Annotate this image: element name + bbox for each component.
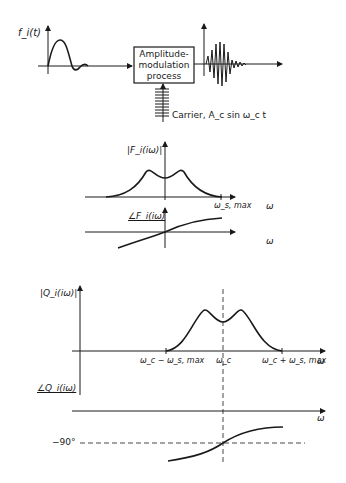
- input-signal-plot: [38, 26, 132, 74]
- input-signal-label: f_i(t): [18, 27, 41, 38]
- input-x-axis-label: ω: [266, 201, 274, 211]
- input-tick-label: ω_s, max: [214, 201, 251, 210]
- output-phase-label: ∠Q_i(iω): [37, 383, 76, 393]
- carrier-label: Carrier, A_c sin ω_c t: [172, 110, 266, 120]
- output-magnitude-label: |Q_i(iω)|: [40, 288, 77, 298]
- input-phase-label: ∠F_i(iω): [128, 211, 165, 221]
- output-tick-low: ω_c − ω_s, max: [140, 356, 204, 365]
- input-magnitude-label: |F_i(iω)|: [127, 145, 162, 155]
- input-phase-x-label: ω: [266, 236, 274, 246]
- minus-90-label: −90°: [52, 437, 76, 447]
- carrier-coil-icon: [155, 84, 169, 122]
- box-line-2: modulation: [134, 60, 194, 71]
- am-box-label: Amplitude- modulation process: [134, 49, 194, 82]
- output-phase-plot: [72, 411, 325, 461]
- box-line-1: Amplitude-: [134, 49, 194, 60]
- output-x-axis-label: ω: [317, 356, 325, 366]
- output-phase-x-label: ω: [317, 413, 325, 423]
- output-magnitude-plot: [72, 286, 325, 465]
- modulated-output-plot: [194, 24, 282, 86]
- output-tick-center: ω_c: [216, 356, 231, 365]
- box-line-3: process: [134, 71, 194, 82]
